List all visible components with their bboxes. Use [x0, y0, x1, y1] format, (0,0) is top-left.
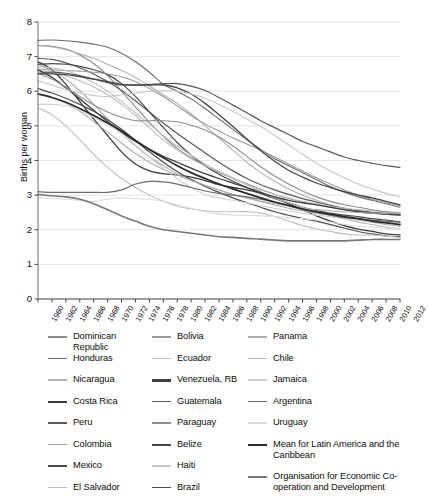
legend-swatch-line-icon	[152, 401, 171, 403]
legend-item[interactable]: Belize	[152, 438, 248, 460]
x-tick-label: 1962	[63, 304, 79, 323]
x-tick-label: 1996	[300, 304, 316, 323]
legend-swatch-line-icon	[152, 444, 171, 447]
series-line	[38, 81, 400, 197]
legend-swatch-line-icon	[248, 422, 267, 424]
legend-swatch-line-icon	[248, 358, 267, 360]
x-tick-label: 1992	[272, 304, 288, 323]
legend-swatch-line-icon	[48, 422, 67, 424]
legend-swatch-line-icon	[48, 379, 67, 381]
legend-item[interactable]: Mexico	[48, 459, 152, 481]
legend-item[interactable]: Dominican Republic	[48, 330, 152, 352]
legend-item[interactable]: Ecuador	[152, 352, 248, 374]
legend-label: Peru	[73, 416, 92, 428]
legend-swatch-line-icon	[152, 465, 171, 467]
x-tick-label: 1998	[314, 304, 330, 323]
legend-item[interactable]: Mean for Latin America and the Caribbean	[248, 438, 416, 470]
y-tick-label: 1	[18, 258, 32, 269]
legend-swatch-line-icon	[48, 444, 67, 446]
chart-legend: Dominican RepublicHondurasNicaraguaCosta…	[0, 330, 418, 504]
legend-item[interactable]: Jamaica	[248, 373, 416, 395]
legend-swatch-line-icon	[248, 476, 267, 479]
legend-label: Brazil	[177, 481, 200, 493]
gridlines	[38, 22, 400, 299]
y-tick-label: 5	[18, 120, 32, 131]
legend-item[interactable]: Panama	[248, 330, 416, 352]
legend-item[interactable]: El Salvador	[48, 481, 152, 503]
legend-swatch-line-icon	[248, 379, 267, 381]
legend-swatch-line-icon	[248, 444, 267, 447]
y-tick-label: 4	[18, 155, 32, 166]
legend-swatch-line-icon	[48, 358, 67, 360]
legend-label: Honduras	[73, 352, 113, 364]
legend-item[interactable]: Chile	[248, 352, 416, 374]
legend-swatch-line-icon	[48, 401, 67, 404]
x-tick-label: 1974	[147, 304, 163, 323]
x-tick-label: 2000	[328, 304, 344, 323]
legend-swatch-line-icon	[48, 465, 67, 467]
legend-swatch-line-icon	[248, 401, 267, 403]
x-tick-label: 1976	[161, 304, 177, 323]
legend-swatch-line-icon	[152, 487, 171, 489]
legend-swatch-line-icon	[248, 336, 267, 338]
series-line	[38, 40, 400, 207]
x-tick-label: 2008	[384, 304, 400, 323]
plot-canvas	[0, 14, 418, 306]
x-tick-label: 1966	[91, 304, 107, 323]
legend-column: Dominican RepublicHondurasNicaraguaCosta…	[48, 330, 152, 502]
legend-column: BoliviaEcuadorVenezuela, RBGuatemalaPara…	[152, 330, 248, 502]
legend-item[interactable]: Brazil	[152, 481, 248, 503]
legend-swatch-line-icon	[152, 358, 171, 360]
legend-swatch-line-icon	[152, 379, 171, 382]
legend-label: Ecuador	[177, 352, 211, 364]
legend-label: Jamaica	[273, 373, 307, 385]
x-tick-label: 1986	[230, 304, 246, 323]
legend-label: Guatemala	[177, 395, 222, 407]
x-tick-label: 1968	[105, 304, 121, 323]
x-tick-label: 1988	[244, 304, 260, 323]
x-tick-label: 2004	[356, 304, 372, 323]
legend-label: Mexico	[73, 459, 102, 471]
legend-item[interactable]: Colombia	[48, 438, 152, 460]
legend-item[interactable]: Uruguay	[248, 416, 416, 438]
legend-label: Bolivia	[177, 330, 204, 342]
legend-label: El Salvador	[73, 481, 119, 493]
x-tick-label: 1980	[189, 304, 205, 323]
x-tick-label: 1964	[77, 304, 93, 323]
legend-item[interactable]: Guatemala	[152, 395, 248, 417]
x-tick-label: 2012	[411, 304, 427, 323]
legend-item[interactable]: Venezuela, RB	[152, 373, 248, 395]
legend-label: Mean for Latin America and the Caribbean	[273, 438, 416, 461]
legend-label: Chile	[273, 352, 294, 364]
legend-swatch-line-icon	[48, 487, 67, 489]
x-tick-label: 1994	[286, 304, 302, 323]
x-tick-label: 2006	[370, 304, 386, 323]
legend-swatch-line-icon	[152, 422, 171, 424]
series-line	[38, 64, 400, 226]
legend-label: Argentina	[273, 395, 312, 407]
x-tick-label: 2002	[342, 304, 358, 323]
legend-item[interactable]: Costa Rica	[48, 395, 152, 417]
legend-item[interactable]: Paraguay	[152, 416, 248, 438]
legend-item[interactable]: Argentina	[248, 395, 416, 417]
legend-item[interactable]: Organisation for Economic Co-operation a…	[248, 470, 416, 502]
y-tick-label: 2	[18, 224, 32, 235]
y-tick-label: 6	[18, 85, 32, 96]
y-tick-label: 7	[18, 51, 32, 62]
x-tick-label: 1960	[49, 304, 65, 323]
legend-item[interactable]: Nicaragua	[48, 373, 152, 395]
legend-item[interactable]: Haiti	[152, 459, 248, 481]
plot-area: Births per woman 012345678 1960196219641…	[0, 14, 418, 306]
legend-label: Organisation for Economic Co-operation a…	[273, 470, 416, 493]
legend-item[interactable]: Bolivia	[152, 330, 248, 352]
y-tick-label: 3	[18, 189, 32, 200]
x-tick-label: 1984	[217, 304, 233, 323]
legend-label: Paraguay	[177, 416, 216, 428]
legend-item[interactable]: Peru	[48, 416, 152, 438]
x-tick-label: 1978	[175, 304, 191, 323]
legend-label: Colombia	[73, 438, 111, 450]
series-line	[38, 46, 400, 215]
legend-item[interactable]: Honduras	[48, 352, 152, 374]
x-tick-label: 1990	[258, 304, 274, 323]
